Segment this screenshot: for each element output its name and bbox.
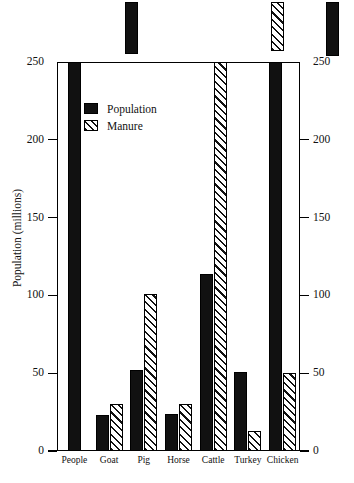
y-tick-label-left: 50 xyxy=(4,367,44,379)
bar-manure-cattle xyxy=(214,62,227,451)
legend-swatch-population-icon xyxy=(84,103,98,114)
y-tick-label-left: 200 xyxy=(4,134,44,146)
y-tick-left xyxy=(48,450,57,451)
bar-manure-pig xyxy=(144,294,157,451)
bar-manure-horse xyxy=(179,404,192,451)
y-tick-label-right: 0 xyxy=(313,445,353,457)
bar-population-goat xyxy=(96,415,109,451)
legend-label-manure: Manure xyxy=(107,120,143,132)
y-tick-right xyxy=(300,217,309,218)
y-tick-label-right: 50 xyxy=(313,367,353,379)
bar-stub-population-chicken xyxy=(326,2,339,56)
y-tick-right xyxy=(300,450,309,451)
bar-population-chicken xyxy=(269,62,282,451)
y-tick-label-left: 250 xyxy=(4,56,44,68)
y-tick-label-right: 150 xyxy=(313,212,353,224)
bar-population-people xyxy=(68,62,81,451)
bar-layer xyxy=(57,0,300,483)
bar-population-turkey xyxy=(234,372,247,451)
y-tick-left xyxy=(48,217,57,218)
y-axis-label-left: Population (millions) xyxy=(11,148,23,328)
y-tick-left xyxy=(48,373,57,374)
bar-population-pig xyxy=(130,370,143,451)
legend-label-population: Population xyxy=(107,103,157,115)
chart-legend: Population Manure xyxy=(84,100,157,134)
y-tick-label-left: 0 xyxy=(4,445,44,457)
y-tick-label-right: 100 xyxy=(313,289,353,301)
y-tick-label-left: 150 xyxy=(4,212,44,224)
bar-manure-goat xyxy=(110,404,123,451)
y-tick-label-right: 250 xyxy=(313,56,353,68)
y-tick-right xyxy=(300,373,309,374)
bar-population-cattle xyxy=(200,274,213,451)
y-tick-label-right: 200 xyxy=(313,134,353,146)
y-tick-right xyxy=(300,295,309,296)
legend-item-population: Population xyxy=(84,100,157,117)
legend-swatch-manure-icon xyxy=(84,120,98,131)
bar-manure-chicken xyxy=(283,373,296,451)
bar-chart: Population (millions) Quantity of manure… xyxy=(0,0,354,483)
legend-item-manure: Manure xyxy=(84,117,157,134)
y-tick-left xyxy=(48,295,57,296)
y-tick-left xyxy=(48,139,57,140)
bar-population-horse xyxy=(165,414,178,451)
x-axis-label-chicken: Chicken xyxy=(257,455,309,466)
x-axis-category-labels: PeopleGoatPigHorseCattleTurkeyChicken xyxy=(57,455,300,477)
bar-manure-turkey xyxy=(248,431,261,451)
y-tick-label-left: 100 xyxy=(4,289,44,301)
y-tick-right xyxy=(300,139,309,140)
